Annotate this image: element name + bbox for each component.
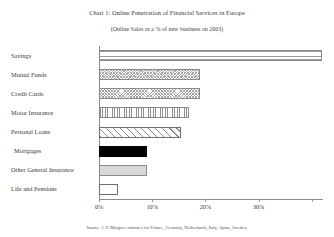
- category-label: Credit Cards: [11, 90, 43, 97]
- bar: [99, 88, 200, 99]
- x-axis-tick-label: 0%: [95, 203, 103, 210]
- category-label: Mortgages: [14, 147, 41, 154]
- chart-title: Chart 1: Online Penetration of Financial…: [0, 9, 334, 16]
- bar: [99, 69, 200, 80]
- bar: [99, 165, 147, 176]
- category-label: Savings: [11, 52, 31, 59]
- x-axis-tick-label: 20%: [200, 203, 211, 210]
- bar: [99, 127, 181, 138]
- chart-subtitle: (Online Sales as a % of new business on …: [0, 26, 334, 32]
- category-label: Mutual Funds: [11, 71, 47, 78]
- bar: [99, 50, 322, 61]
- category-label: Life and Pensions: [11, 185, 57, 192]
- chart-figure: Chart 1: Online Penetration of Financial…: [0, 0, 334, 237]
- bar: [99, 146, 147, 157]
- x-axis-tick-mark: [205, 199, 206, 202]
- x-axis-line: [99, 199, 323, 200]
- x-axis-tick-mark: [259, 199, 260, 202]
- x-axis-tick-label: 10%: [147, 203, 158, 210]
- x-axis-tick-mark: [312, 199, 313, 202]
- x-axis-tick-mark: [152, 199, 153, 202]
- x-axis-tick-label: 30%: [253, 203, 264, 210]
- bar: [99, 184, 118, 195]
- category-label: Personal Loans: [11, 128, 50, 135]
- bar: [99, 107, 189, 118]
- x-axis-tick-mark: [99, 199, 100, 202]
- source-note: Source: J. P. Morgan estimates for Franc…: [0, 225, 334, 230]
- category-label: Motor Insurance: [11, 109, 53, 116]
- category-label: Other General Insurance: [11, 166, 74, 173]
